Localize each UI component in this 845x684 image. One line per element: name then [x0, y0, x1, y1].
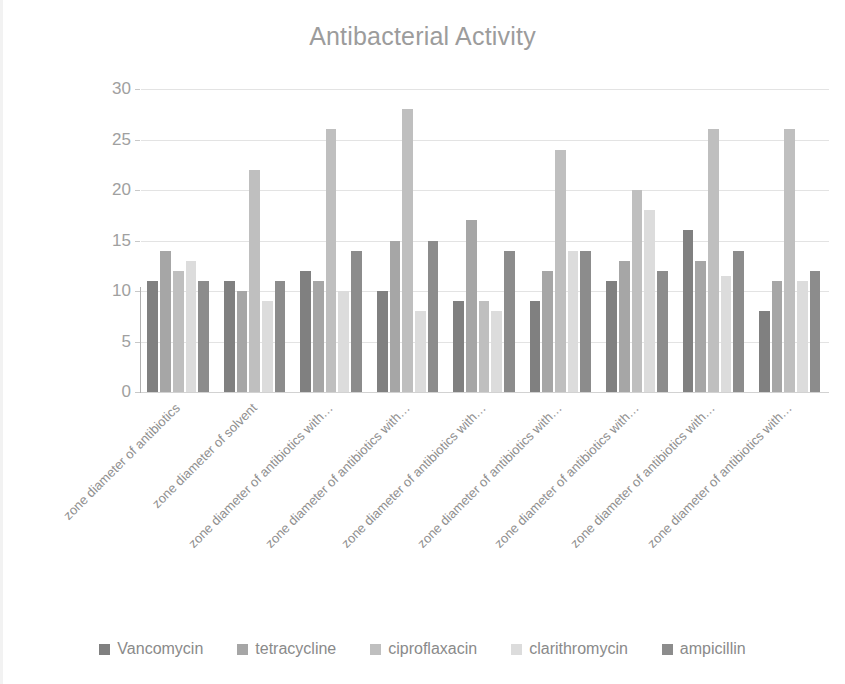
bar	[708, 129, 719, 392]
legend-item-tetracycline[interactable]: tetracycline	[237, 640, 336, 658]
legend-label: Vancomycin	[117, 640, 203, 658]
plot-area	[141, 89, 829, 392]
bar	[810, 271, 821, 392]
bar	[797, 281, 808, 392]
legend-swatch-icon	[370, 644, 381, 655]
legend-item-ciproflaxacin[interactable]: ciproflaxacin	[370, 640, 477, 658]
y-tick-label-25: 25	[97, 131, 131, 148]
bar	[377, 291, 388, 392]
bar-group	[753, 89, 829, 392]
x-axis-label: zone diameter of antibiotics with…	[645, 401, 795, 551]
legend-swatch-icon	[511, 644, 522, 655]
x-axis-label: zone diameter of antibiotics with…	[186, 401, 336, 551]
y-tick-label-0: 0	[97, 383, 131, 400]
y-tick-mark-0	[135, 392, 140, 393]
bar-group	[370, 89, 446, 392]
bar	[147, 281, 158, 392]
y-tick-label-30: 30	[97, 80, 131, 97]
bar	[237, 291, 248, 392]
bar	[390, 241, 401, 393]
bar	[313, 281, 324, 392]
chart-legend: Vancomycintetracyclineciproflaxacinclari…	[0, 640, 845, 658]
legend-label: ampicillin	[680, 640, 746, 658]
y-tick-label-15: 15	[97, 232, 131, 249]
x-axis-label: zone diameter of antibiotics with…	[339, 401, 489, 551]
bar	[606, 281, 617, 392]
y-tick-label-10: 10	[97, 282, 131, 299]
bar	[568, 251, 579, 392]
bar	[555, 150, 566, 392]
bar	[784, 129, 795, 392]
legend-swatch-icon	[662, 644, 673, 655]
bar	[338, 291, 349, 392]
bar	[173, 271, 184, 392]
bar-group	[676, 89, 752, 392]
x-axis-label: zone diameter of antibiotics with…	[263, 401, 413, 551]
bar	[657, 271, 668, 392]
x-axis-label: zone diameter of antibiotics with…	[492, 401, 642, 551]
x-axis-line	[141, 392, 829, 393]
legend-swatch-icon	[99, 644, 110, 655]
bar	[198, 281, 209, 392]
y-tick-label-5: 5	[97, 333, 131, 350]
legend-label: clarithromycin	[529, 640, 628, 658]
bar	[542, 271, 553, 392]
x-axis-label: zone diameter of antibiotics with…	[415, 401, 565, 551]
y-tick-mark-10	[135, 291, 140, 292]
bar	[402, 109, 413, 392]
bar-group	[447, 89, 523, 392]
y-tick-mark-30	[135, 89, 140, 90]
bar-group	[217, 89, 293, 392]
legend-label: ciproflaxacin	[388, 640, 477, 658]
bar	[300, 271, 311, 392]
bar	[683, 230, 694, 392]
bar	[580, 251, 591, 392]
bar-chart: Antibacterial Activity zone diameter of …	[0, 0, 845, 684]
legend-label: tetracycline	[255, 640, 336, 658]
bar	[186, 261, 197, 392]
bar	[772, 281, 783, 392]
bar	[530, 301, 541, 392]
bar	[644, 210, 655, 392]
legend-item-vancomycin[interactable]: Vancomycin	[99, 640, 203, 658]
bar	[632, 190, 643, 392]
y-tick-mark-25	[135, 140, 140, 141]
legend-item-ampicillin[interactable]: ampicillin	[662, 640, 746, 658]
bar	[275, 281, 286, 392]
y-tick-mark-5	[135, 342, 140, 343]
bar	[491, 311, 502, 392]
bar	[733, 251, 744, 392]
chart-title: Antibacterial Activity	[0, 22, 845, 51]
bar	[415, 311, 426, 392]
bar	[479, 301, 490, 392]
bar	[721, 276, 732, 392]
y-tick-label-20: 20	[97, 181, 131, 198]
page-edge-shadow	[0, 0, 3, 684]
bar-group	[523, 89, 599, 392]
bar	[160, 251, 171, 392]
bar-group	[141, 89, 217, 392]
bar	[759, 311, 770, 392]
bar	[351, 251, 362, 392]
bar	[619, 261, 630, 392]
bar-group	[600, 89, 676, 392]
y-tick-mark-20	[135, 190, 140, 191]
x-axis-label: zone diameter of antibiotics with…	[568, 401, 718, 551]
bar	[695, 261, 706, 392]
y-axis-line	[140, 287, 141, 393]
bar	[249, 170, 260, 392]
bar	[224, 281, 235, 392]
bar	[504, 251, 515, 392]
bar	[326, 129, 337, 392]
bar	[262, 301, 273, 392]
legend-swatch-icon	[237, 644, 248, 655]
bar	[466, 220, 477, 392]
bar	[428, 241, 439, 393]
legend-item-clarithromycin[interactable]: clarithromycin	[511, 640, 628, 658]
y-tick-mark-15	[135, 241, 140, 242]
bar	[453, 301, 464, 392]
bar-group	[294, 89, 370, 392]
